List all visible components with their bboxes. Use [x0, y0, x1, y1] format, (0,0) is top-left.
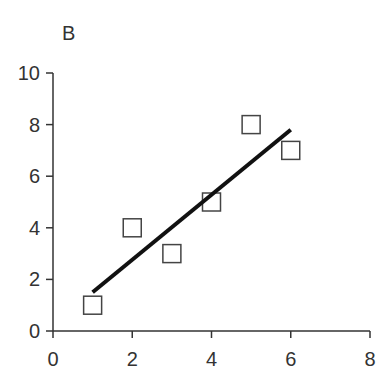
data-points: [84, 116, 300, 315]
y-tick-label: 8: [29, 114, 40, 136]
panel-label: B: [62, 22, 75, 44]
x-tick-label: 4: [206, 348, 217, 370]
axes: 024681002468: [18, 62, 376, 370]
x-tick-label: 0: [47, 348, 58, 370]
y-tick-label: 2: [29, 268, 40, 290]
y-tick-label: 0: [29, 320, 40, 342]
data-point-square: [123, 219, 141, 237]
y-tick-label: 4: [29, 217, 40, 239]
x-tick-label: 6: [285, 348, 296, 370]
x-tick-label: 8: [364, 348, 375, 370]
data-point-square: [282, 141, 300, 159]
y-tick-label: 10: [18, 62, 40, 84]
y-tick-label: 6: [29, 165, 40, 187]
regression-line: [93, 130, 291, 293]
fit-line: [93, 130, 291, 293]
data-point-square: [163, 245, 181, 263]
scatter-chart: B 024681002468: [0, 0, 392, 390]
data-point-square: [242, 116, 260, 134]
x-tick-label: 2: [127, 348, 138, 370]
data-point-square: [84, 296, 102, 314]
